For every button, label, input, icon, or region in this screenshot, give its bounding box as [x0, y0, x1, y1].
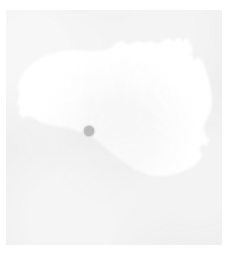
region-map-svg [6, 10, 222, 245]
map-canvas[interactable] [6, 10, 222, 245]
region-map-figure [0, 0, 231, 269]
location-marker-icon[interactable] [84, 126, 94, 136]
region-outline-shape [17, 37, 212, 176]
